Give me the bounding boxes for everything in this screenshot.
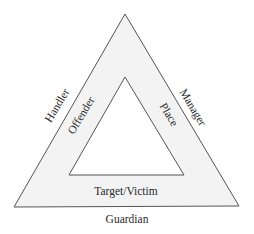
crime-triangle-diagram: Handler Offender Manager Place Target/Vi… [0, 0, 254, 234]
inner-label-target-victim: Target/Victim [94, 185, 157, 198]
outer-label-guardian: Guardian [106, 213, 149, 225]
